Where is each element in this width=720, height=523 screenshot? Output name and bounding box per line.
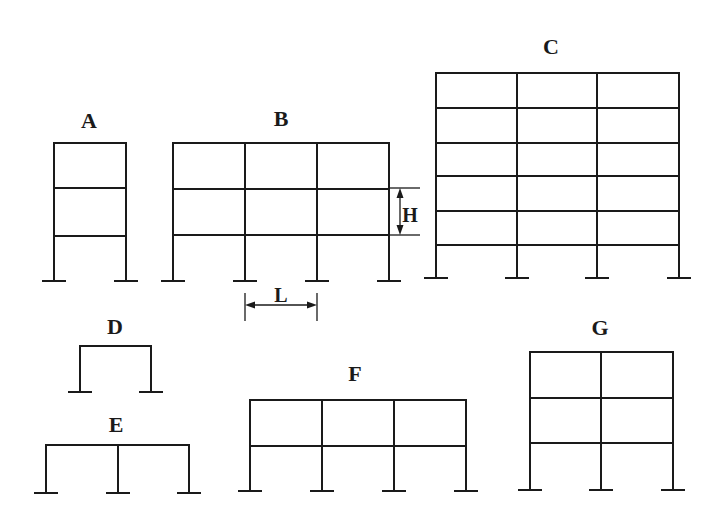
arrow-up-icon [397, 188, 404, 198]
frame-label: G [591, 315, 608, 340]
dimension-l: L [245, 284, 317, 321]
dimension-label: H [402, 204, 418, 226]
frame-label: D [107, 314, 123, 339]
frame-c: C [424, 34, 691, 278]
frame-label: A [81, 108, 97, 133]
diagram-svg: ABCDEFGHL [0, 0, 720, 523]
frame-b: B [161, 106, 401, 281]
frames-diagram: ABCDEFGHL [0, 0, 720, 523]
dimension-h: H [390, 188, 420, 235]
frame-f: F [238, 361, 478, 491]
frame-label: F [348, 361, 361, 386]
frame-e: E [34, 412, 201, 493]
frame-g: G [518, 315, 685, 490]
dimension-label: L [274, 284, 287, 306]
arrow-left-icon [245, 302, 255, 309]
arrow-right-icon [307, 302, 317, 309]
arrow-down-icon [397, 225, 404, 235]
frame-label: C [543, 34, 559, 59]
frame-a: A [42, 108, 138, 281]
frame-d: D [68, 314, 163, 392]
frame-label: B [274, 106, 289, 131]
frame-label: E [109, 412, 124, 437]
